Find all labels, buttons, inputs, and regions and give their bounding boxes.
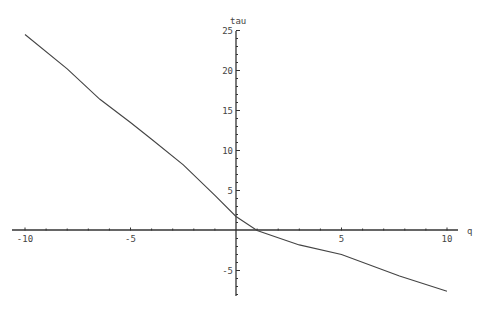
y-tick-label: 20 <box>222 66 233 76</box>
x-axis-label: q <box>467 226 472 236</box>
x-tick-label: -10 <box>17 234 33 244</box>
y-tick-label: 5 <box>228 186 233 196</box>
x-tick-label: 5 <box>339 234 344 244</box>
y-tick-label: 15 <box>222 106 233 116</box>
y-tick-label: -5 <box>222 266 233 276</box>
y-tick-label: 10 <box>222 146 233 156</box>
x-tick-label: -5 <box>125 234 136 244</box>
x-tick-label: 10 <box>442 234 453 244</box>
chart: -10-5510 q -5510152025 tau <box>0 0 490 311</box>
y-axis: -5510152025 tau <box>222 16 246 296</box>
y-axis-label: tau <box>230 16 246 26</box>
y-tick-label: 25 <box>222 26 233 36</box>
x-axis: -10-5510 q <box>12 226 472 244</box>
